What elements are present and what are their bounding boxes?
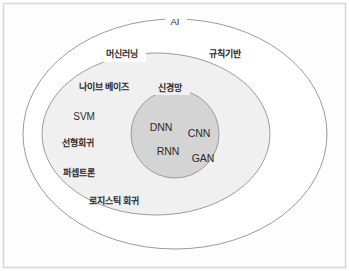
label-linear-regression: 선형회귀 [62,139,94,148]
label-ai: AI [171,17,180,27]
label-machine-learning: 머신러닝 [106,50,138,59]
label-gan: GAN [192,153,214,164]
label-perceptron: 퍼셉트론 [63,169,95,178]
diagram-canvas: AI 머신러닝 신경망 규칙기반 나이브 베이즈 SVM 선형회귀 퍼셉트론 로… [0,0,349,271]
label-naive-bayes: 나이브 베이즈 [79,83,129,92]
label-dnn: DNN [150,122,172,133]
label-svm: SVM [73,112,94,122]
label-cnn: CNN [188,128,210,139]
label-rnn: RNN [157,146,179,157]
label-rule-based: 규칙기반 [209,50,241,59]
venn-diagram-svg [0,0,349,271]
label-neural-network: 신경망 [158,84,182,93]
label-logistic-regression: 로지스틱 회귀 [89,197,139,206]
